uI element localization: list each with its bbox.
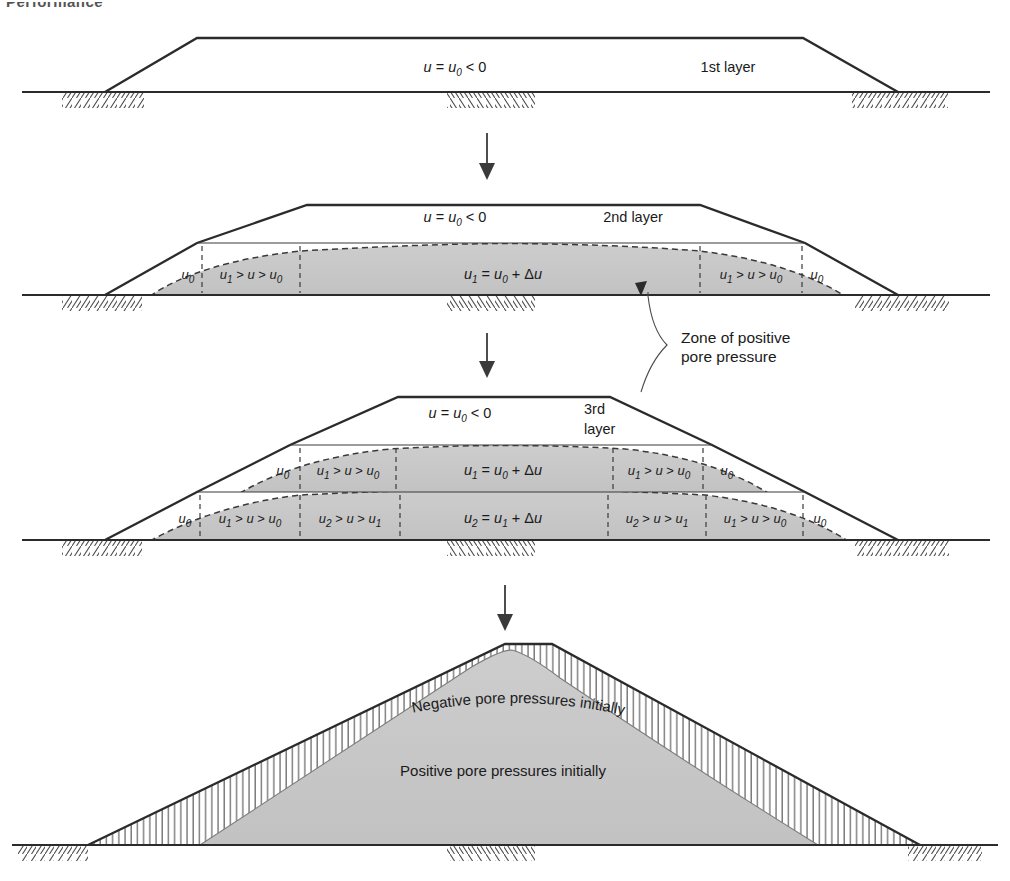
ground-hatch-stage-2 [62, 296, 949, 311]
stage-2-group: u = u0 < 0 2nd layer u0 u1 > u > u0 u1 =… [22, 205, 990, 311]
positive-pore-pressure-label: Positive pore pressures initially [400, 762, 606, 779]
layer-label-stage-3-line2: layer [584, 421, 616, 437]
negative-zone-stage-4 [80, 630, 930, 855]
stage-4-group: Negative pore pressures initially Positi… [12, 630, 998, 861]
annotation-line-2: pore pressure [681, 348, 777, 365]
layer-label-stage-2: 2nd layer [603, 209, 663, 225]
flow-arrow-1 [479, 133, 495, 180]
embankment-outline-stage-1 [105, 38, 898, 92]
flow-arrow-3 [497, 585, 513, 631]
annotation-arrowheads [627, 281, 647, 470]
crest-label-stage-2: u = u0 < 0 [424, 209, 487, 228]
crest-label-stage-3: u = u0 < 0 [429, 405, 492, 424]
annotation-zone-of-positive-pore-pressure: Zone of positive pore pressure [641, 292, 790, 392]
crest-label-stage-1: u = u0 < 0 [424, 59, 487, 78]
stage-3-group: u = u0 < 0 3rd layer u0 u1 > u > u0 u1 =… [22, 397, 990, 556]
annotation-line-1: Zone of positive [681, 329, 790, 346]
layer-label-stage-1: 1st layer [701, 59, 756, 75]
ground-hatch-stage-4 [18, 846, 982, 861]
ground-hatch-stage-3 [62, 541, 949, 556]
layer-label-stage-3-line1: 3rd [584, 401, 605, 417]
stage-1-group: u = u0 < 0 1st layer [22, 38, 990, 108]
pore-pressure-diagram: u = u0 < 0 1st layer u = u0 < 0 [0, 0, 1010, 881]
flow-arrow-2 [479, 333, 495, 378]
ground-hatch-stage-1 [62, 93, 948, 108]
